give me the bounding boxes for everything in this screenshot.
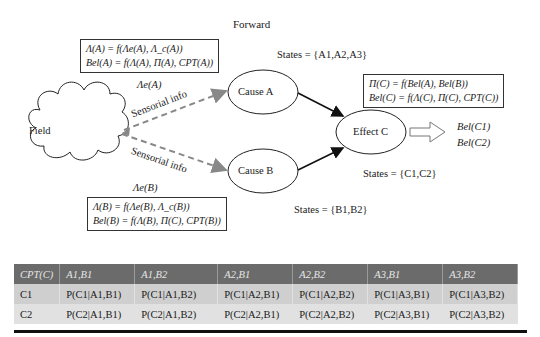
formula-c-line1: Π(C) = f(Bel(A), Bel(B)) — [369, 77, 498, 91]
table-cell: P(C1|A1,B1) — [60, 284, 135, 304]
cpt-header-cell: A1,B2 — [135, 264, 218, 284]
cpt-header-cell: A3,B1 — [368, 264, 443, 284]
bottom-rule — [14, 330, 527, 333]
table-cell: P(C1|A1,B2) — [135, 284, 218, 304]
formula-c-line2: Bel(C) = f(Λ(C), Π(C), CPT(C)) — [369, 91, 498, 105]
output-arrow — [410, 122, 445, 142]
output-bel-c2: Bel(C2) — [457, 138, 490, 149]
cpt-header-cell: A2,B2 — [293, 264, 368, 284]
field-cloud-shape — [29, 82, 129, 160]
cpt-table: CPT(C) A1,B1 A1,B2 A2,B1 A2,B2 A3,B1 A3,… — [14, 264, 518, 324]
table-cell: P(C2|A3,B1) — [368, 304, 443, 324]
table-cell: P(C1|A2,B1) — [218, 284, 293, 304]
cause-a-label: Cause A — [238, 87, 273, 98]
table-cell: P(C2|A3,B2) — [443, 304, 518, 324]
table-row: C1 P(C1|A1,B1) P(C1|A1,B2) P(C1|A2,B1) P… — [14, 284, 518, 304]
arrow-a-to-c — [298, 93, 343, 116]
cpt-header-cell: CPT(C) — [14, 264, 60, 284]
formula-box-a: Λ(A) = f(Λe(A), Λ_c(A)) Bel(A) = f(Λ(A),… — [80, 39, 219, 73]
table-row: C2 P(C2|A1,B1) P(C2|A1,B2) P(C2|A2,B1) P… — [14, 304, 518, 324]
states-b-label: States = {B1,B2} — [294, 205, 367, 216]
diagram-title: Forward — [233, 19, 270, 30]
table-cell: C2 — [14, 304, 60, 324]
formula-box-c: Π(C) = f(Bel(A), Bel(B)) Bel(C) = f(Λ(C)… — [363, 74, 504, 108]
cpt-header-cell: A2,B1 — [218, 264, 293, 284]
lambda-e-b-label: Λe(B) — [133, 183, 157, 194]
formula-box-b: Λ(B) = f(Λe(B), Λ_c(B)) Bel(B) = f(Λ(B),… — [87, 197, 227, 231]
cpt-header-cell: A1,B1 — [60, 264, 135, 284]
formula-b-line2: Bel(B) = f(Λ(B), Π(C), CPT(B)) — [93, 214, 221, 228]
cpt-header-cell: A3,B2 — [443, 264, 518, 284]
table-cell: P(C2|A2,B2) — [293, 304, 368, 324]
effect-c-label: Effect C — [353, 127, 388, 138]
table-cell: P(C1|A3,B2) — [443, 284, 518, 304]
table-cell: P(C1|A3,B1) — [368, 284, 443, 304]
table-cell: C1 — [14, 284, 60, 304]
states-c-label: States = {C1,C2} — [363, 169, 436, 180]
table-cell: P(C1|A2,B2) — [293, 284, 368, 304]
table-cell: P(C2|A1,B2) — [135, 304, 218, 324]
table-cell: P(C2|A2,B1) — [218, 304, 293, 324]
field-label: Field — [29, 126, 51, 137]
lambda-e-a-label: Λe(A) — [137, 80, 161, 91]
cpt-header-row: CPT(C) A1,B1 A1,B2 A2,B1 A2,B2 A3,B1 A3,… — [14, 264, 518, 284]
states-a-label: States = {A1,A2,A3} — [277, 50, 367, 61]
formula-a-line2: Bel(A) = f(Λ(A), Π(A), CPT(A)) — [86, 56, 213, 70]
formula-b-line1: Λ(B) = f(Λe(B), Λ_c(B)) — [93, 200, 221, 214]
arrow-b-to-c — [298, 148, 343, 170]
cause-b-label: Cause B — [238, 166, 273, 177]
output-bel-c1: Bel(C1) — [457, 122, 490, 133]
formula-a-line1: Λ(A) = f(Λe(A), Λ_c(A)) — [86, 42, 213, 56]
table-cell: P(C2|A1,B1) — [60, 304, 135, 324]
